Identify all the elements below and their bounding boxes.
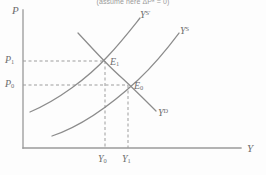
- plot-canvas: [0, 0, 266, 175]
- curve-ys-prime: [30, 18, 140, 112]
- curve-ys-prime-sup: S′: [146, 9, 151, 16]
- tick-y1-sub: 1: [128, 157, 131, 164]
- equilibrium-label-e0: E0: [134, 81, 143, 92]
- curve-yd: [78, 33, 156, 111]
- guide-lines-group: [23, 61, 128, 148]
- axes-group: [23, 10, 241, 148]
- e1-sub: 1: [116, 60, 119, 67]
- tick-y0-sub: 0: [104, 157, 107, 164]
- e0-sub: 0: [140, 84, 143, 91]
- equilibrium-label-e1: E1: [110, 57, 119, 68]
- x-axis-label: Y: [247, 143, 253, 154]
- curve-label-ys-prime: YS′: [140, 10, 151, 20]
- supply-demand-figure: (assume here ΔPᵉ = 0) P Y P1 P0 Y0 Y1 YS…: [0, 0, 266, 175]
- tick-label-p1: P1: [5, 55, 14, 66]
- curve-label-ys: YS: [180, 26, 189, 36]
- tick-p1-sub: 1: [11, 58, 14, 65]
- y-axis-label: P: [12, 5, 19, 16]
- tick-label-p0: P0: [5, 79, 14, 90]
- tick-label-y0: Y0: [98, 154, 107, 165]
- tick-p0-sub: 0: [11, 82, 14, 89]
- curve-label-yd: YD: [158, 108, 168, 118]
- curve-yd-sup: D: [164, 107, 169, 114]
- curve-ys-sup: S: [186, 25, 190, 32]
- tick-label-y1: Y1: [122, 154, 131, 165]
